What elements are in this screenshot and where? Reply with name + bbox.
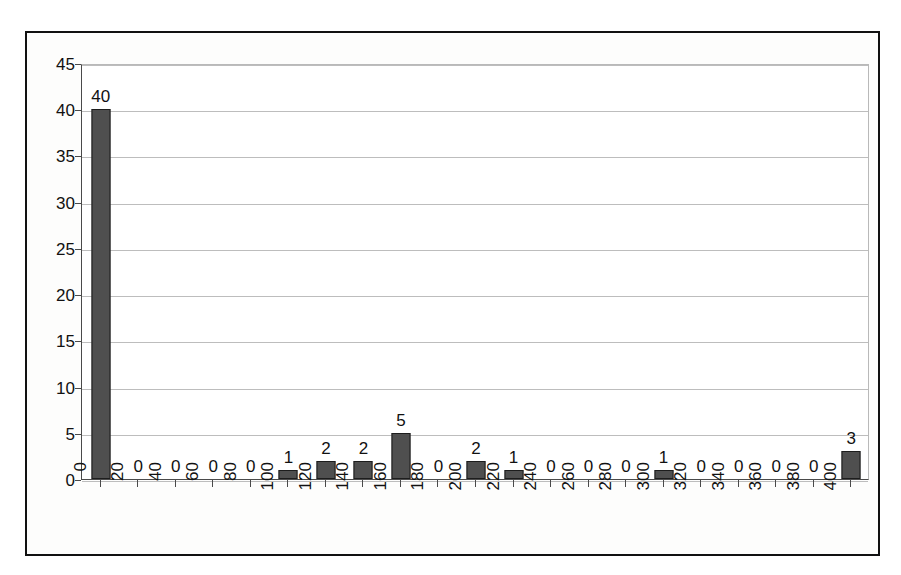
x-tick-mark-80 — [250, 480, 251, 487]
chart-figure-frame: 051015202530354045 400000122502100010000… — [25, 31, 880, 556]
bar-slot: 0 — [195, 65, 233, 479]
bar-slot: 0 — [420, 65, 458, 479]
bar-value-label: 0 — [809, 458, 818, 475]
x-tick-mark-100 — [287, 480, 288, 487]
bar-value-label: 2 — [359, 440, 368, 457]
y-tick-label-40: 40 — [41, 102, 75, 119]
bar-value-label: 0 — [734, 458, 743, 475]
x-tick-label-360: 360 — [747, 462, 764, 518]
y-tick-label-5: 5 — [41, 425, 75, 442]
bar-value-label: 1 — [509, 449, 518, 466]
bar-slot: 1 — [645, 65, 683, 479]
x-tick-label-180: 180 — [409, 462, 426, 518]
y-tick-label-45: 45 — [41, 56, 75, 73]
bar-slot: 0 — [682, 65, 720, 479]
bar-slot: 3 — [832, 65, 870, 479]
bar-slot: 40 — [82, 65, 120, 479]
x-tick-mark-0 — [100, 480, 101, 487]
x-tick-mark-320 — [700, 480, 701, 487]
bar[interactable] — [842, 451, 861, 479]
x-tick-label-20: 20 — [109, 462, 126, 518]
y-tick-label-10: 10 — [41, 379, 75, 396]
x-tick-label-380: 380 — [785, 462, 802, 518]
x-tick-mark-260 — [588, 480, 589, 487]
bar-value-label: 0 — [621, 458, 630, 475]
bar-slot: 0 — [232, 65, 270, 479]
x-tick-label-240: 240 — [522, 462, 539, 518]
y-tick-label-0: 0 — [41, 472, 75, 489]
x-tick-mark-380 — [813, 480, 814, 487]
plot-area: 4000001225021000100003 — [81, 64, 869, 480]
bar-slot: 0 — [532, 65, 570, 479]
x-tick-label-60: 60 — [184, 462, 201, 518]
bar-slot: 1 — [270, 65, 308, 479]
x-tick-label-260: 260 — [560, 462, 577, 518]
bar-slot: 0 — [795, 65, 833, 479]
bar-slot: 0 — [157, 65, 195, 479]
bar-value-label: 0 — [209, 458, 218, 475]
bar-value-label: 0 — [246, 458, 255, 475]
bar-value-label: 0 — [134, 458, 143, 475]
bar-value-label: 1 — [659, 449, 668, 466]
y-tick-label-15: 15 — [41, 333, 75, 350]
x-tick-label-340: 340 — [710, 462, 727, 518]
x-tick-label-280: 280 — [597, 462, 614, 518]
bar-slot: 0 — [607, 65, 645, 479]
x-tick-mark-40 — [175, 480, 176, 487]
x-tick-label-200: 200 — [447, 462, 464, 518]
bar-value-label: 3 — [846, 430, 855, 447]
bar-value-label: 0 — [771, 458, 780, 475]
bars-layer: 4000001225021000100003 — [82, 65, 868, 479]
x-tick-label-120: 120 — [297, 462, 314, 518]
x-tick-mark-180 — [437, 480, 438, 487]
x-tick-label-0: 0 — [72, 462, 89, 518]
bar-slot: 0 — [570, 65, 608, 479]
bar-value-label: 0 — [584, 458, 593, 475]
bar-value-label: 40 — [91, 88, 110, 105]
bar-slot: 2 — [345, 65, 383, 479]
x-tick-label-40: 40 — [147, 462, 164, 518]
bar-value-label: 0 — [546, 458, 555, 475]
x-tick-mark-200 — [475, 480, 476, 487]
x-tick-label-300: 300 — [635, 462, 652, 518]
x-tick-mark-340 — [738, 480, 739, 487]
x-axis: 0204060801001201401601802002202402602803… — [81, 480, 869, 570]
x-tick-mark-20 — [137, 480, 138, 487]
bar-value-label: 0 — [696, 458, 705, 475]
y-tick-label-35: 35 — [41, 148, 75, 165]
bar[interactable] — [91, 109, 110, 479]
y-tick-label-20: 20 — [41, 287, 75, 304]
bar-slot: 2 — [307, 65, 345, 479]
bar-value-label: 2 — [471, 440, 480, 457]
bar[interactable] — [466, 461, 485, 479]
bar-value-label: 1 — [284, 449, 293, 466]
x-tick-mark-300 — [663, 480, 664, 487]
x-tick-label-140: 140 — [334, 462, 351, 518]
y-tick-label-30: 30 — [41, 194, 75, 211]
x-tick-mark-240 — [550, 480, 551, 487]
x-tick-mark-60 — [212, 480, 213, 487]
x-tick-mark-220 — [513, 480, 514, 487]
bar-slot: 1 — [495, 65, 533, 479]
x-tick-mark-160 — [400, 480, 401, 487]
x-tick-label-80: 80 — [222, 462, 239, 518]
x-tick-label-100: 100 — [259, 462, 276, 518]
bar-value-label: 0 — [434, 458, 443, 475]
y-tick-label-25: 25 — [41, 240, 75, 257]
x-tick-mark-280 — [625, 480, 626, 487]
y-axis: 051015202530354045 — [35, 64, 75, 480]
x-tick-mark-400 — [850, 480, 851, 487]
bar-slot: 2 — [457, 65, 495, 479]
x-tick-label-320: 320 — [672, 462, 689, 518]
x-tick-mark-360 — [775, 480, 776, 487]
x-tick-mark-140 — [362, 480, 363, 487]
x-tick-label-220: 220 — [485, 462, 502, 518]
bar-slot: 0 — [120, 65, 158, 479]
bar-value-label: 0 — [171, 458, 180, 475]
bar[interactable] — [279, 470, 298, 479]
bar-value-label: 5 — [396, 412, 405, 429]
bar-slot: 5 — [382, 65, 420, 479]
x-tick-mark-120 — [325, 480, 326, 487]
x-tick-label-400: 400 — [822, 462, 839, 518]
bar-value-label: 2 — [321, 440, 330, 457]
